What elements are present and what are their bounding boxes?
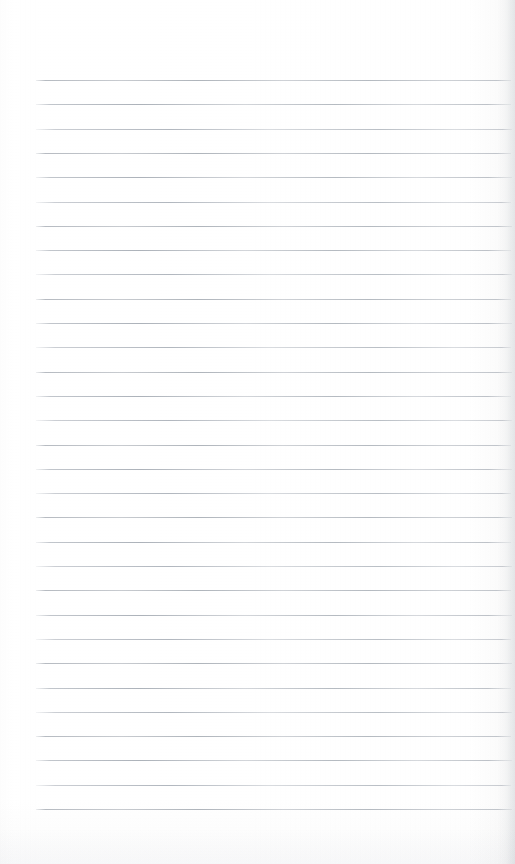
notebook-page: [0, 0, 515, 864]
writing-area[interactable]: [36, 80, 512, 810]
